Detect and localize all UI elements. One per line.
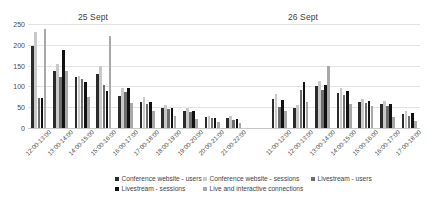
bar-set (205, 24, 220, 128)
legend-label: Livestream - users (318, 176, 372, 183)
bar (349, 104, 352, 128)
y-axis-tick-label: 150 (13, 62, 25, 69)
bar-set (272, 24, 287, 128)
legend-item[interactable]: Conference website - sessions (203, 176, 311, 183)
legend-item[interactable]: Conference website - users (115, 176, 203, 183)
bar-group (355, 24, 377, 128)
bar-group (93, 24, 115, 128)
bar (44, 29, 47, 128)
bar-group (223, 24, 245, 128)
bar (239, 123, 242, 128)
bar (392, 117, 395, 128)
legend-item[interactable]: Livestream - sessions (115, 186, 203, 193)
legend-swatch-icon (203, 177, 207, 181)
y-axis-tick-label: 250 (13, 21, 25, 28)
bar (371, 106, 374, 128)
bar-set (31, 24, 46, 128)
bar-set (358, 24, 373, 128)
bar-set (380, 24, 395, 128)
legend-swatch-icon (115, 177, 119, 181)
panel-title-day2: 26 Sept (288, 12, 318, 22)
bar-set (96, 24, 111, 128)
panel-title-day1: 25 Sept (78, 12, 108, 22)
bar (109, 36, 112, 128)
bar-group (268, 24, 290, 128)
bar (87, 97, 90, 128)
y-axis-tick-label: 50 (17, 104, 25, 111)
bar (306, 102, 309, 128)
bar (130, 103, 133, 128)
x-axis-labels: 12:00-13:0013:00-14:0014:00-15:0015:00-1… (28, 129, 420, 175)
legend-label: Live and interactive connections (210, 186, 304, 193)
panel-gap (245, 24, 269, 128)
bar-set (315, 24, 330, 128)
bar (327, 66, 330, 128)
y-axis-tick-label: 200 (13, 41, 25, 48)
bar-set (118, 24, 133, 128)
legend-row-2: Livestream - sessionsLive and interactiv… (115, 186, 311, 193)
bar-groups (28, 24, 420, 128)
bar-set (75, 24, 90, 128)
legend-row-1: Conference website - usersConference web… (115, 176, 311, 183)
bar-group (158, 24, 180, 128)
bar-group (136, 24, 158, 128)
bar-group (115, 24, 137, 128)
bar-group (398, 24, 420, 128)
plot-area: 050100150200250 (28, 24, 420, 128)
y-axis-tick-label: 100 (13, 83, 25, 90)
bar (414, 121, 417, 128)
bar-set (402, 24, 417, 128)
bar-group (201, 24, 223, 128)
chart-legend: Conference website - usersConference web… (0, 176, 426, 192)
bar-set (140, 24, 155, 128)
bar-set (226, 24, 241, 128)
bar-set (53, 24, 68, 128)
bar-group (71, 24, 93, 128)
legend-swatch-icon (311, 177, 315, 181)
legend-swatch-icon (203, 187, 207, 191)
bar-set (337, 24, 352, 128)
bar-set (293, 24, 308, 128)
bar-group (312, 24, 334, 128)
bar-group (377, 24, 399, 128)
bar-set (183, 24, 198, 128)
bar (174, 116, 177, 128)
y-axis-tick-label: 0 (21, 125, 25, 132)
legend-label: Conference website - users (122, 176, 202, 183)
bar (217, 122, 220, 128)
bar (195, 119, 198, 128)
bar-group (333, 24, 355, 128)
legend-item[interactable]: Live and interactive connections (203, 186, 311, 193)
bar-set (161, 24, 176, 128)
bar-group (28, 24, 50, 128)
legend-swatch-icon (115, 187, 119, 191)
bar (65, 71, 68, 128)
bar-group (50, 24, 72, 128)
bar (284, 111, 287, 128)
grouped-bar-chart: 25 Sept 26 Sept 050100150200250 12:00-13… (0, 0, 426, 210)
bar (152, 111, 155, 128)
bar-group (180, 24, 202, 128)
bar-group (290, 24, 312, 128)
legend-label: Livestream - sessions (122, 186, 186, 193)
legend-label: Conference website - sessions (210, 176, 300, 183)
